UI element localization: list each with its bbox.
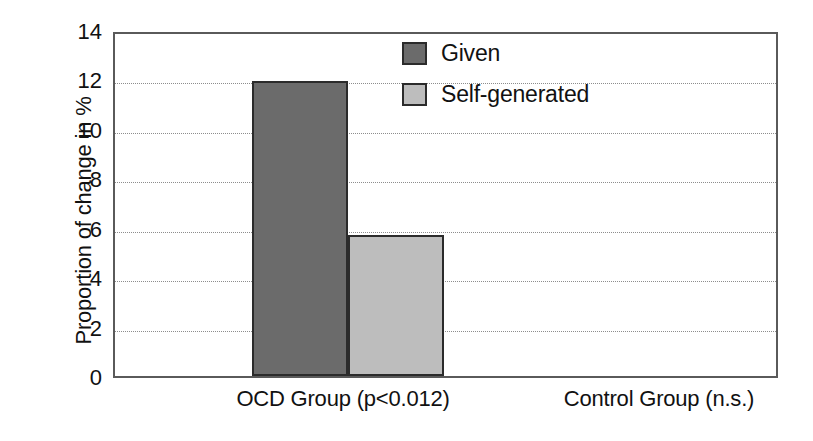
y-axis-tick-label: 6 xyxy=(90,219,102,241)
legend-swatch-icon xyxy=(402,42,427,65)
y-axis-tick-label: 4 xyxy=(90,268,102,290)
y-axis-tick-label: 10 xyxy=(78,120,102,142)
y-axis-tick-label: 14 xyxy=(78,21,102,43)
legend: GivenSelf-generated xyxy=(402,40,589,108)
legend-label: Given xyxy=(441,40,500,67)
gridline xyxy=(115,331,776,332)
x-axis-tick-labels: OCD Group (p<0.012)Control Group (n.s.) xyxy=(113,386,778,426)
gridline xyxy=(115,281,776,282)
legend-swatch-icon xyxy=(402,83,427,106)
legend-label: Self-generated xyxy=(441,81,589,108)
y-axis-tick-label: 8 xyxy=(90,169,102,191)
x-axis-tick-label: OCD Group (p<0.012) xyxy=(236,386,449,412)
x-axis-tick-label: Control Group (n.s.) xyxy=(564,386,754,412)
bar-given-1 xyxy=(252,81,348,376)
gridline xyxy=(115,182,776,183)
bar-chart-figure: Proportion of change in % 14121086420 Gi… xyxy=(0,0,813,441)
y-axis-tick-label: 2 xyxy=(90,318,102,340)
legend-item-given: Given xyxy=(402,40,589,67)
y-axis-tick-labels: 14121086420 xyxy=(60,32,108,378)
gridline xyxy=(115,232,776,233)
gridline xyxy=(115,133,776,134)
bar-self-generated-1 xyxy=(348,235,444,376)
y-axis-tick-label: 0 xyxy=(90,367,102,389)
legend-item-self-generated: Self-generated xyxy=(402,81,589,108)
y-axis-tick-label: 12 xyxy=(78,70,102,92)
